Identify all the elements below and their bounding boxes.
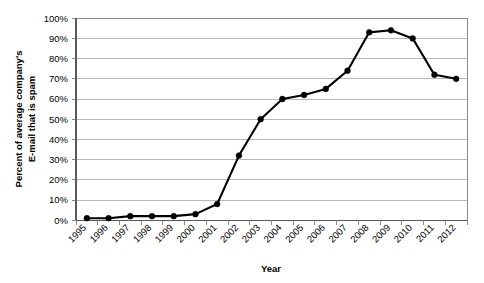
data-point-2004	[279, 96, 285, 102]
data-point-2001	[214, 201, 220, 207]
spam-percentage-line-chart: 100% 90% 80% 70% 60% 50% 40% 30% 20% 10%…	[0, 0, 484, 283]
data-point-1997	[127, 213, 133, 219]
x-axis-title: Year	[261, 263, 281, 274]
data-point-2012	[453, 76, 459, 82]
y-tick-label: 100%	[44, 13, 69, 24]
data-point-2002	[236, 153, 242, 159]
y-tick-label: 50%	[49, 114, 69, 125]
y-tick-label: 70%	[49, 73, 69, 84]
y-axis-title-line1: Percent of average company's	[13, 51, 24, 188]
data-point-2006	[323, 86, 329, 92]
y-tick-label: 10%	[49, 194, 69, 205]
data-point-2010	[410, 36, 416, 42]
data-point-1995	[84, 215, 90, 221]
data-point-1996	[106, 215, 112, 221]
data-point-2008	[366, 29, 372, 35]
y-tick-label: 0%	[54, 215, 68, 226]
data-point-2007	[345, 68, 351, 74]
data-point-2009	[388, 27, 394, 33]
y-axis-title-line2: E-mail that is spam	[26, 76, 37, 163]
data-point-1998	[149, 213, 155, 219]
chart-container: 100% 90% 80% 70% 60% 50% 40% 30% 20% 10%…	[0, 0, 484, 283]
data-point-2005	[301, 92, 307, 98]
y-tick-label: 30%	[49, 154, 69, 165]
data-point-2000	[193, 211, 199, 217]
y-tick-label: 40%	[49, 134, 69, 145]
y-tick-label: 90%	[49, 33, 69, 44]
data-point-2011	[432, 72, 438, 78]
data-point-2003	[258, 116, 264, 122]
y-tick-label: 60%	[49, 93, 69, 104]
y-tick-label: 80%	[49, 53, 69, 64]
y-tick-label: 20%	[49, 174, 69, 185]
data-point-1999	[171, 213, 177, 219]
